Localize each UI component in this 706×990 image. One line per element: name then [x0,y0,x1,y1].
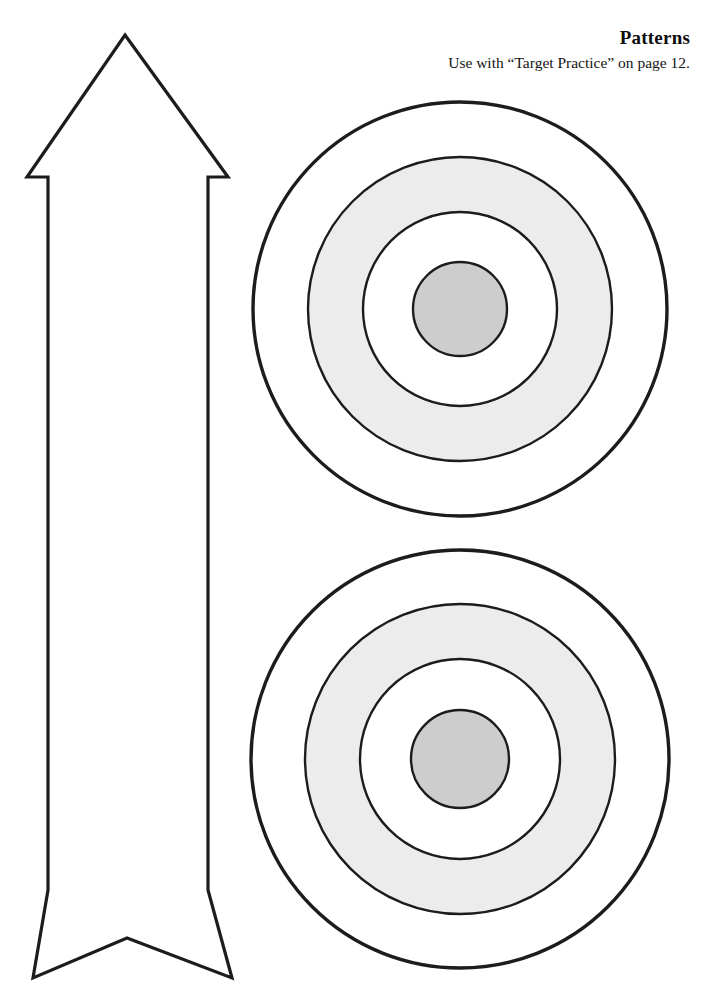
target-bottom [251,550,669,968]
target-top-bullseye [413,262,507,356]
target-top [253,102,667,516]
arrow-cutout [27,35,232,978]
pattern-page: Patterns Use with “Target Practice” on p… [0,0,706,990]
pattern-artwork [0,0,706,990]
target-bottom-bullseye [411,710,509,808]
